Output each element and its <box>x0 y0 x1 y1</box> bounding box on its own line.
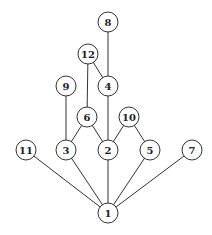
node-5: 5 <box>140 140 160 160</box>
edges-layer <box>26 22 192 213</box>
node-label: 5 <box>147 145 154 156</box>
node-label: 6 <box>84 112 91 123</box>
node-4: 4 <box>98 76 118 96</box>
node-label: 2 <box>105 145 112 156</box>
node-11: 11 <box>16 140 36 160</box>
node-label: 1 <box>105 208 112 219</box>
node-label: 3 <box>63 145 70 156</box>
node-2: 2 <box>98 140 118 160</box>
edge-5-1 <box>108 150 150 213</box>
node-7: 7 <box>182 140 202 160</box>
nodes-layer: 123456789101112 <box>16 12 202 223</box>
node-9: 9 <box>56 76 76 96</box>
node-10: 10 <box>119 107 139 127</box>
node-label: 12 <box>81 49 95 60</box>
node-1: 1 <box>98 203 118 223</box>
node-3: 3 <box>56 140 76 160</box>
node-label: 9 <box>63 81 70 92</box>
node-label: 8 <box>105 17 112 28</box>
node-8: 8 <box>98 12 118 32</box>
node-label: 10 <box>122 112 136 123</box>
node-label: 7 <box>189 145 196 156</box>
hasse-diagram: 123456789101112 <box>0 0 212 235</box>
node-12: 12 <box>78 44 98 64</box>
node-label: 11 <box>19 145 33 156</box>
node-6: 6 <box>77 107 97 127</box>
node-label: 4 <box>105 81 112 92</box>
edge-3-1 <box>66 150 108 213</box>
